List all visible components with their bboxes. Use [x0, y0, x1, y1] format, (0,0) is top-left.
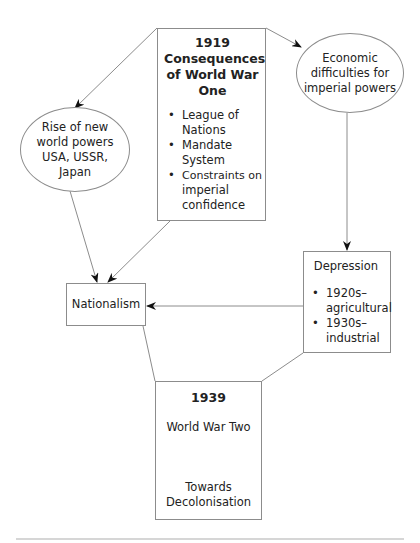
text-line: Rise of new	[37, 120, 114, 135]
consequences-box: 1919 Consequences of World War One Leagu…	[157, 28, 266, 221]
text-line: Towards	[156, 480, 261, 495]
new-powers-ellipse: Rise of new world powers USA, USSR, Japa…	[20, 107, 130, 192]
text-line: difficulties for	[304, 66, 396, 81]
ww2-subtitle: World War Two	[156, 420, 261, 435]
bullet-text: 1920s–	[326, 286, 388, 301]
economic-ellipse: Economic difficulties for imperial power…	[296, 33, 404, 113]
edge-consequences-to-new-powers	[75, 28, 157, 108]
depression-bullets: 1920s– agricultural 1930s– industrial	[308, 286, 388, 346]
depression-title: Depression	[304, 259, 388, 274]
consequences-year: 1919	[164, 35, 261, 51]
bullet-league-of-nations: League of Nations	[164, 108, 261, 138]
edge-nationalism-to-ww2	[143, 326, 155, 381]
bullet-constraints: Constraints on imperial confidence	[164, 168, 261, 213]
text-line: world powers	[37, 135, 114, 150]
bullet-text: imperial	[182, 183, 261, 198]
text-line: Japan	[37, 165, 114, 180]
ww2-result: Towards Decolonisation	[156, 480, 261, 510]
bullet-text: Nations	[182, 123, 261, 138]
bullet-text: 1930s–	[326, 316, 388, 331]
consequences-title-line-3: One	[164, 83, 261, 99]
bullet-text: Mandate	[182, 138, 261, 153]
consequences-title-line-2: of World War	[164, 67, 261, 83]
text-line: imperial powers	[304, 81, 396, 96]
bullet-1920s: 1920s– agricultural	[308, 286, 388, 316]
edge-depression-to-ww2	[262, 353, 303, 381]
text-line: Decolonisation	[156, 495, 261, 510]
bullet-text: Constraints on	[182, 168, 261, 183]
bullet-text: industrial	[326, 331, 388, 346]
consequences-bullets: League of Nations Mandate System Constra…	[164, 108, 261, 213]
bullet-text: agricultural	[326, 301, 388, 316]
nationalism-label: Nationalism	[72, 297, 140, 312]
ww2-box: 1939 World War Two Towards Decolonisatio…	[155, 381, 262, 520]
nationalism-box: Nationalism	[66, 283, 146, 326]
edge-new-powers-to-nationalism	[70, 191, 97, 282]
text-line: USA, USSR,	[37, 150, 114, 165]
new-powers-text: Rise of new world powers USA, USSR, Japa…	[37, 120, 114, 180]
text-line: Economic	[304, 51, 396, 66]
bullet-mandate-system: Mandate System	[164, 138, 261, 168]
bullet-text: confidence	[182, 198, 261, 213]
consequences-title-line-1: Consequences	[164, 51, 261, 67]
bullet-1930s: 1930s– industrial	[308, 316, 388, 346]
depression-box: Depression 1920s– agricultural 1930s– in…	[303, 251, 391, 353]
bullet-text: League of	[182, 108, 261, 123]
ww2-year: 1939	[156, 390, 261, 406]
edge-consequences-to-nationalism	[108, 221, 170, 282]
edge-consequences-to-economic	[266, 28, 301, 47]
economic-text: Economic difficulties for imperial power…	[304, 51, 396, 96]
bullet-text: System	[182, 153, 261, 168]
